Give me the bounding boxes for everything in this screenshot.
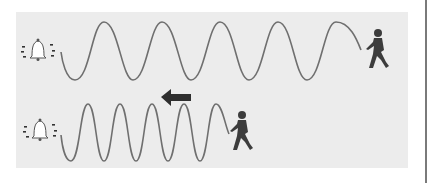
walking-person-icon	[230, 111, 253, 150]
sound-wave-compressed	[61, 104, 229, 161]
doppler-diagram	[0, 0, 432, 183]
row-stationary	[21, 22, 389, 80]
sound-wave-long	[61, 22, 361, 80]
arrow-left-icon	[161, 89, 191, 106]
bell-icon	[23, 119, 57, 142]
walking-person-icon	[366, 29, 389, 68]
bell-icon	[21, 39, 55, 62]
row-moving-toward-source	[23, 89, 253, 161]
